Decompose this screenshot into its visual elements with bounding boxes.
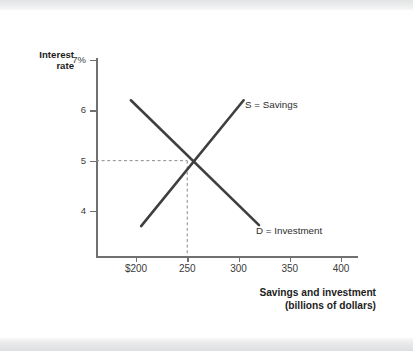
y-tick-mark (90, 110, 97, 111)
series-label-savings: S = Savings (245, 99, 298, 110)
y-axis-line (96, 58, 98, 258)
y-tick-label: 6 (52, 105, 86, 115)
y-tick-mark (90, 211, 97, 212)
series-label-investment: D = Investment (256, 225, 322, 236)
y-tick-label: 5 (52, 156, 86, 166)
x-axis-title-line1: Savings and investment (160, 287, 376, 300)
x-tick-mark (187, 256, 188, 262)
y-tick-label: 4 (52, 206, 86, 216)
x-tick-mark (341, 256, 342, 262)
x-tick-label: 400 (311, 263, 371, 274)
y-tick-mark (90, 60, 97, 61)
x-tick-mark (239, 256, 240, 262)
curve-series (131, 100, 259, 226)
equilibrium-guides (96, 161, 187, 257)
y-tick-mark (90, 161, 97, 162)
supply-demand-chart: Interest rate 7%654 $200250300350400 S =… (0, 10, 413, 338)
x-tick-mark (290, 256, 291, 262)
x-tick-mark (136, 256, 137, 262)
curve-supply (141, 100, 244, 226)
bottom-gray-band (0, 338, 413, 351)
x-axis-title-line2: (billions of dollars) (160, 300, 376, 313)
y-tick-label: 7% (52, 55, 86, 65)
top-gray-band (0, 0, 413, 10)
curve-demand (131, 100, 259, 225)
x-axis-title: Savings and investment (billions of doll… (160, 287, 376, 312)
